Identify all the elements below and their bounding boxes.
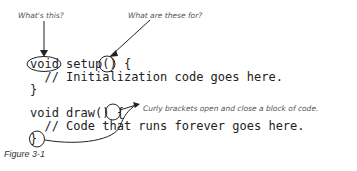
circle-close-brace [30,131,45,147]
circle-open-brace [106,104,121,120]
annotation-arrows [0,0,357,171]
circle-void [27,57,61,72]
arrow-line-brace [120,105,136,110]
arrowhead-void [40,50,48,57]
arrow-line-parens [114,20,150,53]
curve-close-brace [45,105,136,142]
arrowhead-brace [133,102,140,108]
circle-parens [99,56,115,72]
